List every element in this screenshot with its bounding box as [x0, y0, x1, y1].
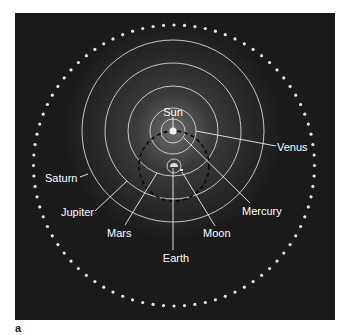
- star-dot: [268, 61, 271, 64]
- moon-label: Moon: [203, 227, 231, 239]
- mars-label: Mars: [107, 227, 132, 239]
- star-dot: [311, 143, 314, 146]
- star-dot: [131, 30, 134, 33]
- star-dot: [111, 291, 114, 294]
- star-dot: [275, 260, 278, 263]
- star-dot: [121, 295, 124, 298]
- star-dot: [38, 205, 41, 208]
- star-dot: [282, 252, 285, 255]
- mercury-label: Mercury: [242, 205, 282, 217]
- star-dot: [204, 27, 207, 30]
- star-dot: [233, 37, 236, 40]
- star-dot: [85, 274, 88, 277]
- star-dot: [111, 37, 114, 40]
- star-dot: [204, 301, 207, 304]
- star-dot: [233, 291, 236, 294]
- star-dot: [193, 25, 196, 28]
- star-dot: [224, 295, 227, 298]
- star-dot: [252, 48, 255, 51]
- sun-icon: [170, 128, 177, 135]
- star-dot: [311, 185, 314, 188]
- star-dot: [313, 153, 316, 156]
- star-dot: [69, 260, 72, 263]
- star-dot: [69, 68, 72, 71]
- star-dot: [243, 286, 246, 289]
- star-dot: [93, 48, 96, 51]
- star-dot: [152, 25, 155, 28]
- star-dot: [183, 304, 186, 307]
- star-dot: [152, 303, 155, 306]
- star-dot: [56, 243, 59, 246]
- star-dot: [35, 133, 38, 136]
- star-dot: [131, 298, 134, 301]
- star-dot: [282, 76, 285, 79]
- star-dot: [289, 85, 292, 88]
- star-dot: [32, 164, 35, 167]
- star-dot: [42, 215, 45, 218]
- star-dot: [307, 205, 310, 208]
- star-dot: [121, 33, 124, 36]
- star-dot: [260, 274, 263, 277]
- star-dot: [141, 301, 144, 304]
- star-dot: [183, 24, 186, 27]
- star-dot: [299, 225, 302, 228]
- star-dot: [56, 85, 59, 88]
- star-dot: [299, 103, 302, 106]
- star-dot: [268, 267, 271, 270]
- star-dot: [303, 215, 306, 218]
- star-dot: [42, 113, 45, 116]
- star-dot: [63, 76, 66, 79]
- star-dot: [294, 234, 297, 237]
- star-dot: [172, 304, 175, 307]
- star-dot: [294, 94, 297, 97]
- star-dot: [77, 267, 80, 270]
- star-dot: [193, 303, 196, 306]
- solar-system-diagram: Sun Venus Mercury Moon Earth Mars Jupite…: [0, 0, 347, 335]
- venus-label: Venus: [277, 141, 308, 153]
- star-dot: [34, 143, 37, 146]
- moon-icon: [180, 169, 183, 171]
- star-dot: [46, 225, 49, 228]
- star-dot: [172, 23, 175, 26]
- star-dot: [102, 42, 105, 45]
- star-dot: [309, 133, 312, 136]
- earth-label: Earth: [163, 252, 189, 264]
- star-dot: [32, 153, 35, 156]
- star-dot: [309, 195, 312, 198]
- star-dot: [303, 113, 306, 116]
- star-dot: [289, 243, 292, 246]
- star-dot: [307, 123, 310, 126]
- star-dot: [252, 280, 255, 283]
- star-dot: [214, 30, 217, 33]
- star-dot: [51, 94, 54, 97]
- star-dot: [51, 234, 54, 237]
- star-dot: [162, 304, 165, 307]
- star-dot: [141, 27, 144, 30]
- star-dot: [224, 33, 227, 36]
- star-dot: [38, 123, 41, 126]
- star-dot: [102, 286, 105, 289]
- star-dot: [63, 252, 66, 255]
- jupiter-label: Jupiter: [61, 206, 94, 218]
- panel-letter: a: [15, 322, 21, 334]
- star-dot: [35, 195, 38, 198]
- star-dot: [275, 68, 278, 71]
- star-dot: [93, 280, 96, 283]
- star-dot: [313, 164, 316, 167]
- sun-label: Sun: [163, 106, 183, 118]
- star-dot: [46, 103, 49, 106]
- star-dot: [32, 174, 35, 177]
- star-dot: [77, 61, 80, 64]
- star-dot: [162, 24, 165, 27]
- star-dot: [85, 54, 88, 57]
- star-dot: [34, 185, 37, 188]
- star-dot: [243, 42, 246, 45]
- star-dot: [260, 54, 263, 57]
- saturn-label: Saturn: [45, 172, 77, 184]
- star-dot: [313, 174, 316, 177]
- star-dot: [214, 298, 217, 301]
